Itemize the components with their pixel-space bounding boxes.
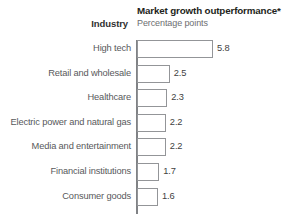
bar	[137, 188, 158, 206]
bar	[137, 40, 213, 58]
bar-value-label: 1.6	[162, 191, 175, 201]
bar-value-label: 2.5	[174, 68, 187, 78]
industry-column-header: Industry	[91, 18, 128, 29]
chart-plot-area: High tech5.8Retail and wholesale2.5Healt…	[0, 38, 295, 218]
bar	[137, 163, 159, 181]
chart-row: Healthcare2.3	[0, 88, 295, 108]
bar-value-label: 5.8	[217, 43, 230, 53]
chart-row: High tech5.8	[0, 39, 295, 59]
chart-title: Market growth outperformance*	[137, 5, 281, 16]
chart-row: Consumer goods1.6	[0, 187, 295, 207]
category-label: Consumer goods	[62, 191, 131, 201]
bar	[137, 138, 166, 156]
category-label: High tech	[93, 43, 131, 53]
chart-row: Media and entertainment2.2	[0, 137, 295, 157]
category-label: Healthcare	[88, 92, 131, 102]
bar-value-label: 2.2	[170, 141, 183, 151]
bar	[137, 89, 167, 107]
category-label: Retail and wholesale	[48, 68, 131, 78]
bar-value-label: 2.3	[171, 92, 184, 102]
chart-header: Industry Market growth outperformance* P…	[0, 0, 295, 38]
bar-value-label: 2.2	[170, 117, 183, 127]
chart-row: Electric power and natural gas2.2	[0, 113, 295, 133]
market-growth-outperformance-chart: Industry Market growth outperformance* P…	[0, 0, 295, 222]
chart-row: Financial institutions1.7	[0, 162, 295, 182]
category-label: Electric power and natural gas	[10, 117, 131, 127]
bar	[137, 65, 170, 83]
bar-value-label: 1.7	[163, 166, 176, 176]
chart-subtitle: Percentage points	[137, 18, 208, 28]
category-label: Financial institutions	[51, 166, 131, 176]
bar	[137, 114, 166, 132]
category-label: Media and entertainment	[32, 141, 131, 151]
chart-row: Retail and wholesale2.5	[0, 64, 295, 84]
